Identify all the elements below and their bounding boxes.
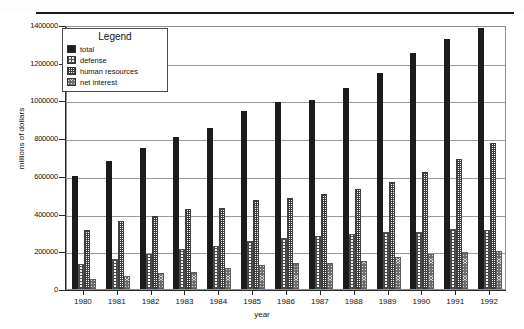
legend-entry: defense: [67, 55, 163, 65]
legend-title: Legend: [67, 31, 163, 42]
legend-swatch-icon: [67, 78, 76, 86]
x-tick-mark: [286, 290, 287, 295]
bar-net-interest: [361, 261, 367, 289]
bar-group: [473, 25, 507, 289]
legend-entry-label: defense: [80, 56, 107, 65]
bar-group: [270, 25, 304, 289]
bar-net-interest: [259, 265, 265, 289]
bar-group: [439, 25, 473, 289]
legend-swatch-icon: [67, 45, 76, 53]
bar-net-interest: [90, 279, 96, 289]
bar-net-interest: [124, 276, 130, 289]
legend-entry: total: [67, 44, 163, 54]
x-tick-mark: [151, 290, 152, 295]
x-tick-mark: [354, 290, 355, 295]
y-tick-label: 1000000: [2, 97, 58, 105]
legend-swatch-icon: [67, 67, 76, 75]
x-tick-mark: [320, 290, 321, 295]
legend-swatch-icon: [67, 56, 76, 64]
x-tick-mark: [252, 290, 253, 295]
y-tick-label: 600000: [2, 173, 58, 181]
bar-net-interest: [395, 257, 401, 289]
bar-net-interest: [191, 272, 197, 289]
bar-net-interest: [158, 273, 164, 289]
y-tick-label: 800000: [2, 135, 58, 143]
bar-net-interest: [293, 263, 299, 289]
legend-entry: net interest: [67, 77, 163, 87]
y-tick-label: 1200000: [2, 60, 58, 68]
y-tick-label: 400000: [2, 211, 58, 219]
x-tick-mark: [421, 290, 422, 295]
x-axis-label: year: [0, 310, 524, 319]
bar-net-interest: [462, 252, 468, 289]
bar-group: [169, 25, 203, 289]
y-axis-label: millions of dollars: [17, 94, 26, 184]
bar-group: [338, 25, 372, 289]
bar-group: [372, 25, 406, 289]
x-tick-mark: [218, 290, 219, 295]
y-tick-label: 1400000: [2, 22, 58, 30]
legend-entry-label: total: [80, 45, 94, 54]
bar-group: [405, 25, 439, 289]
y-tick-label: 200000: [2, 248, 58, 256]
x-tick-mark: [455, 290, 456, 295]
x-tick-mark: [489, 290, 490, 295]
bar-net-interest: [428, 254, 434, 289]
x-tick-mark: [83, 290, 84, 295]
bar-net-interest: [496, 251, 502, 289]
chart-figure: 0200000400000600000800000100000012000001…: [0, 14, 524, 329]
scan-noise-band: [0, 0, 524, 12]
legend-entry: human resources: [67, 66, 163, 76]
legend-entry-label: net interest: [80, 78, 117, 87]
y-axis-ticks: 0200000400000600000800000100000012000001…: [0, 14, 58, 304]
x-tick-label: 1992: [469, 297, 509, 306]
legend-entries: totaldefensehuman resourcesnet interest: [67, 44, 163, 87]
legend-entry-label: human resources: [80, 67, 138, 76]
bar-group: [202, 25, 236, 289]
y-tick-label: 0: [2, 286, 58, 294]
bar-group: [236, 25, 270, 289]
x-tick-mark: [117, 290, 118, 295]
bar-net-interest: [327, 263, 333, 289]
x-tick-mark: [184, 290, 185, 295]
x-tick-mark: [388, 290, 389, 295]
bar-group: [304, 25, 338, 289]
legend-box: Legend totaldefensehuman resourcesnet in…: [62, 28, 168, 92]
bar-net-interest: [225, 268, 231, 289]
